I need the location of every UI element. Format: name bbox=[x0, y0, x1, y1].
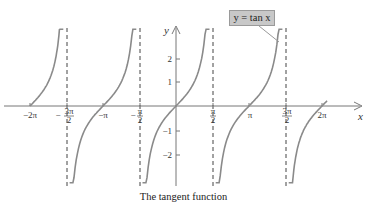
x-tick-label-neg-2pi: −2π bbox=[23, 110, 38, 120]
x-axis-label: x bbox=[357, 110, 363, 122]
legend-label: y = tan x bbox=[229, 10, 275, 26]
x-tick-den-neg-pi-2: 2 bbox=[138, 115, 143, 125]
y-ticks bbox=[176, 59, 180, 155]
y-axis-label: y bbox=[163, 24, 169, 36]
x-tick-den-pi-2: 2 bbox=[211, 115, 216, 125]
y-tick-label-2: 2 bbox=[168, 54, 173, 64]
y-tick-label-neg-2: −2 bbox=[162, 150, 172, 160]
tangent-chart: −2π − 3π 2 −π − π 2 π 2 π 3π 2 2π 2 1 −1… bbox=[0, 0, 367, 212]
x-tick-den-3pi-2: 2 bbox=[285, 115, 290, 125]
x-tick-den-neg-3pi-2: 2 bbox=[67, 115, 72, 125]
chart-caption: The tangent function bbox=[0, 191, 367, 202]
y-tick-label-neg-1: −1 bbox=[162, 126, 172, 136]
tan-branch-1 bbox=[30, 29, 63, 106]
x-tick-label-pi: π bbox=[248, 110, 253, 120]
x-tick-label-neg-pi: −π bbox=[98, 110, 108, 120]
x-tick-label-2pi: 2π bbox=[317, 110, 327, 120]
x-tick-minus-neg-pi-2: − bbox=[130, 110, 135, 120]
y-tick-label-1: 1 bbox=[168, 77, 173, 87]
legend-pointer bbox=[259, 26, 279, 42]
x-tick-minus-neg-3pi-2: − bbox=[55, 110, 60, 120]
